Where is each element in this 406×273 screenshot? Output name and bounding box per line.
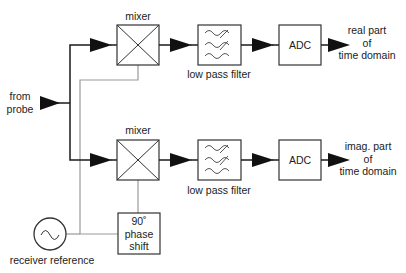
output-label-line1: imag. part <box>345 140 392 152</box>
arrow-icon <box>90 38 112 52</box>
phase-shift-line2: phase <box>125 228 154 240</box>
input-label-line1: from <box>10 90 31 102</box>
channel-imaginary: mixer low pass filter ADC imag <box>90 124 397 196</box>
mixer-label: mixer <box>125 10 151 22</box>
output-label-line1: real part <box>348 24 387 36</box>
receiver-reference-label: receiver reference <box>10 254 95 266</box>
phase-shift-line1: 90˚ <box>131 215 146 227</box>
output-label-line3: time domain <box>338 49 395 61</box>
mixer-icon <box>117 140 159 180</box>
mixer-label: mixer <box>125 124 151 136</box>
input-label-line2: probe <box>7 103 34 115</box>
output-label-line2: of <box>364 153 373 165</box>
filter-label: low pass filter <box>187 68 251 80</box>
adc-label: ADC <box>289 154 312 166</box>
low-pass-filter-icon <box>198 25 241 65</box>
channel-real: mixer low pass filter ADC real <box>90 10 396 80</box>
output-label-line2: of <box>363 37 372 49</box>
adc-label: ADC <box>289 39 312 51</box>
phase-shift-line3: shift <box>129 240 148 252</box>
arrow-icon <box>170 153 192 167</box>
arrow-icon <box>252 38 274 52</box>
arrow-icon <box>252 153 274 167</box>
low-pass-filter-icon <box>198 140 241 180</box>
mixer-icon <box>117 25 159 65</box>
input-arrow-icon <box>40 96 60 110</box>
quadrature-detector-diagram: from probe mixer low pass filter <box>0 0 406 273</box>
oscillator-icon <box>34 218 66 250</box>
arrow-icon <box>90 153 112 167</box>
filter-label: low pass filter <box>187 184 251 196</box>
output-label-line3: time domain <box>339 165 396 177</box>
arrow-icon <box>170 38 192 52</box>
